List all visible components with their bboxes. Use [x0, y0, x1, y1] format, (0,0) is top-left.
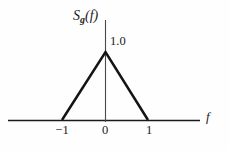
x-tick-label-neg1: −1	[51, 124, 73, 137]
spectrum-figure: Sg(f) 1.0 f −1 0 1	[0, 0, 230, 151]
peak-value-label: 1.0	[110, 35, 126, 48]
y-axis-symbol: S	[73, 8, 80, 23]
x-tick-label-zero: 0	[94, 124, 116, 137]
x-tick-label-pos1: 1	[138, 124, 160, 137]
y-axis-argument: (f)	[85, 8, 98, 23]
y-axis-label: Sg(f)	[73, 9, 98, 25]
x-axis-label: f	[206, 110, 210, 123]
